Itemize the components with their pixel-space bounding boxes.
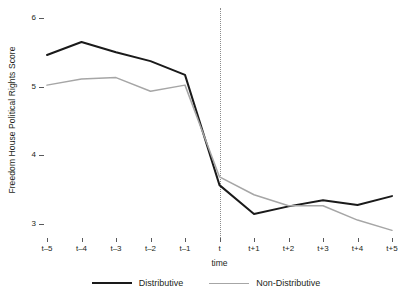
plot-area: [0, 0, 412, 300]
legend-item-distributive: Distributive: [92, 278, 184, 288]
series-line-distributive: [47, 42, 392, 214]
legend-label-non-distributive: Non-Distributive: [256, 278, 320, 288]
legend-item-non-distributive: Non-Distributive: [209, 278, 320, 288]
legend-label-distributive: Distributive: [139, 278, 184, 288]
chart-figure: Freedom House Political Rights Score 345…: [0, 0, 412, 300]
series-line-non-distributive: [47, 78, 392, 231]
chart-legend: Distributive Non-Distributive: [0, 278, 412, 288]
legend-line-swatch-non-distributive: [209, 283, 249, 284]
legend-line-swatch-distributive: [92, 282, 132, 284]
